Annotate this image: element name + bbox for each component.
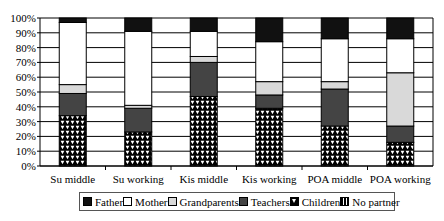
segment-father (256, 18, 283, 42)
y-tick-label: 70% (16, 56, 36, 68)
x-tick-label: POA middle (307, 173, 362, 185)
segment-father (321, 18, 348, 39)
bar-kis-working (256, 18, 283, 166)
y-tick-label: 50% (16, 86, 36, 98)
legend-item-grandparents: Grandparents (168, 196, 239, 208)
y-tick-label: 10% (16, 145, 36, 157)
x-tick-label: Su working (113, 173, 165, 185)
segment-children (256, 108, 283, 166)
father-swatch-icon (83, 197, 92, 206)
mother-swatch-icon (123, 197, 132, 206)
segment-mother (125, 31, 152, 105)
segment-father (387, 18, 414, 39)
segment-father (190, 18, 217, 31)
no-partner-swatch-icon (340, 197, 349, 206)
bar-poa-middle (321, 18, 348, 166)
legend-item-mother: Mother (123, 196, 167, 208)
y-tick-label: 100% (10, 12, 36, 24)
segment-grandparents (59, 85, 86, 94)
segment-father (125, 18, 152, 31)
legend-item-children: Children (290, 196, 341, 208)
legend-item-father: Father (83, 196, 123, 208)
segment-mother (256, 42, 283, 82)
segment-children (190, 96, 217, 166)
segment-mother (190, 31, 217, 56)
stacked-bar-chart: 0%10%20%30%40%50%60%70%80%90%100% Su mid… (0, 0, 444, 190)
x-tick-label: POA working (370, 173, 431, 185)
bar-su-middle (59, 18, 86, 166)
segment-grandparents (387, 73, 414, 126)
x-axis: Su middleSu workingKis middleKis working… (40, 166, 433, 185)
y-tick-label: 60% (16, 71, 36, 83)
segment-teachers (256, 95, 283, 108)
y-tick-label: 80% (16, 42, 36, 54)
y-tick-label: 40% (16, 101, 36, 113)
teachers-swatch-icon (239, 197, 248, 206)
segment-teachers (59, 93, 86, 115)
grandparents-swatch-icon (168, 197, 177, 206)
segment-grandparents (256, 82, 283, 95)
segment-teachers (125, 108, 152, 132)
legend-item-teachers: Teachers (239, 196, 290, 208)
segment-mother (321, 39, 348, 82)
legend-item-no-partner: No partner (340, 196, 399, 208)
gridlines (40, 18, 433, 166)
x-tick-label: Kis middle (179, 173, 228, 185)
segment-children (125, 132, 152, 166)
segment-teachers (190, 62, 217, 96)
segment-mother (387, 39, 414, 73)
bar-kis-middle (190, 18, 217, 166)
bar-poa-working (387, 18, 414, 166)
x-tick-label: Su middle (50, 173, 95, 185)
y-tick-label: 0% (21, 160, 36, 172)
segment-children (387, 142, 414, 166)
segment-father (59, 18, 86, 22)
y-tick-label: 90% (16, 27, 36, 39)
x-tick-label: Kis working (242, 173, 297, 185)
segment-mother (59, 22, 86, 84)
segment-teachers (321, 89, 348, 126)
y-tick-label: 20% (16, 130, 36, 142)
segment-grandparents (321, 82, 348, 89)
children-swatch-icon (290, 197, 299, 206)
legend: Father Mother Grandparents Teachers Chil… (79, 192, 395, 211)
y-tick-label: 30% (16, 116, 36, 128)
segment-children (321, 126, 348, 166)
bar-su-working (125, 18, 152, 166)
segment-children (59, 116, 86, 166)
segment-teachers (387, 126, 414, 142)
segment-grandparents (190, 56, 217, 62)
